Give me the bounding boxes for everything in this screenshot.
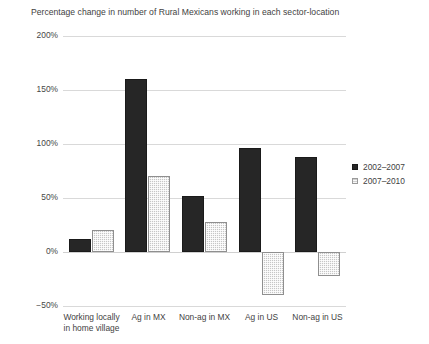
y-axis-tick-label: 50% xyxy=(12,193,58,202)
y-axis-tick-label: 150% xyxy=(12,85,58,94)
bar-chart: Percentage change in number of Rural Mex… xyxy=(0,0,429,344)
bar-series-2007-2010 xyxy=(318,252,340,276)
legend-label: 2007–2010 xyxy=(363,176,405,186)
zero-gridline xyxy=(63,252,346,253)
bar-series-2007-2010 xyxy=(205,222,227,252)
x-axis-category-label: Working locally in home village xyxy=(63,312,120,334)
gridline xyxy=(63,90,346,91)
y-axis-tick-label: 0% xyxy=(12,247,58,256)
chart-title: Percentage change in number of Rural Mex… xyxy=(31,7,339,17)
x-axis-category-label: Non-ag in MX xyxy=(176,312,233,323)
x-axis-category-labels: Working locally in home villageAg in MXN… xyxy=(63,312,346,344)
plot-area xyxy=(63,36,346,306)
bar-series-2002-2007 xyxy=(125,79,147,252)
bar-series-2002-2007 xyxy=(295,157,317,252)
bar-series-2007-2010 xyxy=(92,230,114,252)
y-axis-tick-label: −50% xyxy=(12,301,58,310)
gridline xyxy=(63,306,346,307)
legend-label: 2002–2007 xyxy=(363,162,405,172)
legend-item[interactable]: 2002–2007 xyxy=(352,161,427,173)
bar-series-2007-2010 xyxy=(262,252,284,295)
legend-swatch-icon xyxy=(352,164,358,170)
chart-legend: 2002–20072007–2010 xyxy=(352,161,427,189)
y-axis-tick-labels: −50%0%50%100%150%200% xyxy=(10,36,58,306)
bar-series-2002-2007 xyxy=(239,148,261,252)
x-axis-category-label: Ag in MX xyxy=(120,312,177,323)
x-axis-category-label: Non-ag in US xyxy=(289,312,346,323)
bar-series-2002-2007 xyxy=(182,196,204,252)
y-axis-tick-label: 200% xyxy=(12,31,58,40)
y-axis-tick-label: 100% xyxy=(12,139,58,148)
bar-series-2002-2007 xyxy=(69,239,91,252)
gridline xyxy=(63,144,346,145)
legend-item[interactable]: 2007–2010 xyxy=(352,175,427,187)
gridline xyxy=(63,36,346,37)
bar-series-2007-2010 xyxy=(148,176,170,252)
x-axis-category-label: Ag in US xyxy=(233,312,290,323)
legend-swatch-icon xyxy=(352,178,358,184)
